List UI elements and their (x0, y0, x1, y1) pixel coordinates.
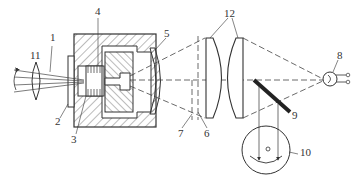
label-6: 6 (204, 128, 210, 139)
label-11: 11 (30, 50, 41, 61)
rotation-arrow (14, 72, 16, 90)
label-8: 8 (337, 50, 343, 61)
housing (74, 34, 156, 127)
label-7: 7 (178, 128, 184, 139)
label-12: 12 (224, 8, 235, 19)
light-source (323, 72, 337, 86)
label-2: 2 (55, 116, 61, 127)
label-10: 10 (300, 147, 311, 158)
diagram-canvas: 1 2 3 4 5 6 7 8 9 10 11 12 (0, 0, 364, 185)
lens-11 (32, 62, 40, 100)
label-4: 4 (95, 6, 101, 17)
label-5: 5 (164, 28, 170, 39)
beam-splitter (254, 80, 290, 112)
label-3: 3 (71, 134, 77, 145)
label-9: 9 (292, 110, 298, 121)
lens-pair-12 (206, 38, 243, 118)
window-plate (68, 56, 74, 107)
label-1: 1 (50, 32, 56, 43)
